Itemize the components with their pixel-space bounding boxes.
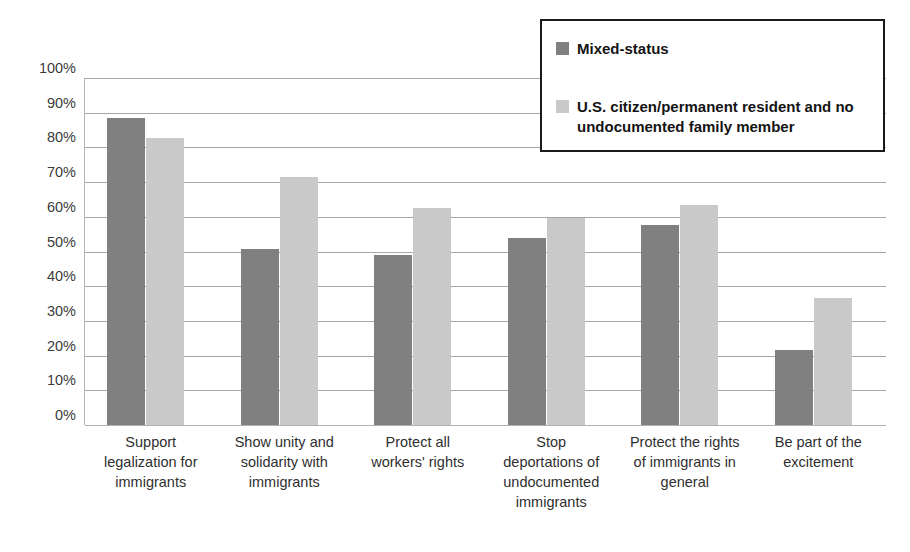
legend-entry: U.S. citizen/permanent resident and no u… — [556, 97, 875, 137]
x-axis-label-line: immigrants — [218, 472, 352, 492]
y-axis: 100%90%80%70%60%50%40%30%20%10%0% — [10, 68, 76, 435]
bar-us-citizen — [814, 298, 852, 425]
bar-chart: 100%90%80%70%60%50%40%30%20%10%0% Suppor… — [0, 0, 910, 552]
x-axis-label-line: Show unity and — [218, 432, 352, 452]
bar-mixed-status — [374, 255, 412, 425]
legend-label: U.S. citizen/permanent resident and no u… — [577, 97, 875, 137]
y-tick-label: 10% — [10, 373, 76, 387]
y-tick-label: 0% — [10, 408, 76, 422]
x-axis-label-line: of immigrants in — [618, 452, 752, 472]
bar-mixed-status — [775, 350, 813, 425]
y-tick-label: 20% — [10, 339, 76, 353]
bar-mixed-status — [508, 238, 546, 425]
bar-mixed-status — [241, 249, 279, 425]
y-tick-label: 80% — [10, 130, 76, 144]
x-axis-label-line: immigrants — [84, 472, 218, 492]
x-axis-label-line: Be part of the — [752, 432, 886, 452]
x-axis-label-line: workers' rights — [351, 452, 485, 472]
x-axis-label-line: undocumented — [485, 472, 619, 492]
x-axis-label-line: legalization for — [84, 452, 218, 472]
y-tick-label: 30% — [10, 304, 76, 318]
x-axis-label: Be part of theexcitement — [752, 432, 886, 472]
bar-group — [219, 78, 353, 425]
bar-us-citizen — [413, 208, 451, 425]
legend-swatch-icon — [556, 100, 569, 113]
legend: Mixed-statusU.S. citizen/permanent resid… — [540, 19, 885, 152]
x-axis-label-line: Support — [84, 432, 218, 452]
bar-group — [352, 78, 486, 425]
bar-us-citizen — [146, 138, 184, 425]
axis-baseline — [85, 425, 886, 426]
x-axis-label: Protect the rightsof immigrants ingenera… — [618, 432, 752, 492]
x-axis-label-line: general — [618, 472, 752, 492]
legend-label: Mixed-status — [577, 39, 669, 59]
bar-mixed-status — [107, 118, 145, 425]
y-tick-label: 70% — [10, 165, 76, 179]
x-axis-label-line: Stop — [485, 432, 619, 452]
y-tick-label: 40% — [10, 269, 76, 283]
x-axis-label: Supportlegalization forimmigrants — [84, 432, 218, 492]
x-axis-label-line: deportations of — [485, 452, 619, 472]
x-axis-label-line: Protect all — [351, 432, 485, 452]
bar-group — [85, 78, 219, 425]
legend-swatch-icon — [556, 42, 569, 55]
y-tick-label: 50% — [10, 235, 76, 249]
bar-mixed-status — [641, 225, 679, 425]
bar-us-citizen — [547, 218, 585, 425]
bar-us-citizen — [680, 205, 718, 425]
y-tick-label: 90% — [10, 96, 76, 110]
legend-entry: Mixed-status — [556, 39, 669, 59]
cropped-top-text — [0, 0, 910, 4]
x-axis-label-line: excitement — [752, 452, 886, 472]
y-tick-label: 100% — [10, 61, 76, 75]
x-axis-label-line: solidarity with — [218, 452, 352, 472]
x-axis-category-labels: Supportlegalization forimmigrantsShow un… — [84, 432, 885, 544]
x-axis-label-line: Protect the rights — [618, 432, 752, 452]
x-axis-label: Stopdeportations ofundocumentedimmigrant… — [485, 432, 619, 512]
y-tick-label: 60% — [10, 200, 76, 214]
x-axis-label: Protect allworkers' rights — [351, 432, 485, 472]
bar-us-citizen — [280, 177, 318, 425]
x-axis-label: Show unity andsolidarity withimmigrants — [218, 432, 352, 492]
x-axis-label-line: immigrants — [485, 492, 619, 512]
